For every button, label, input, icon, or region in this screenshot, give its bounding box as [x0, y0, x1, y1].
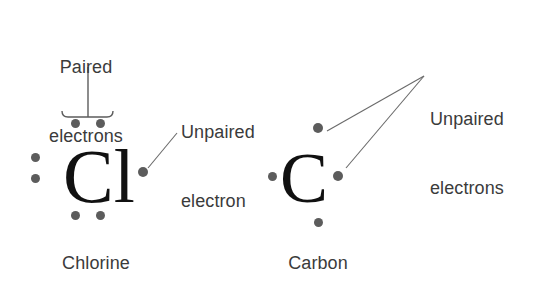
unpaired-electron-label: Unpaired electron — [181, 75, 255, 259]
unpaired-electron-label-line1: Unpaired — [181, 121, 255, 144]
electron-chlorine-bottom-right — [96, 211, 105, 220]
electron-chlorine-left-upper — [31, 153, 40, 162]
lewis-dot-structure-diagram: Paired electrons Unpaired electron Cl Ch… — [0, 0, 537, 296]
unpaired-electrons-label-line1: Unpaired — [430, 108, 504, 131]
electron-chlorine-bottom-left — [71, 211, 80, 220]
unpaired-electrons-label: Unpaired electrons — [430, 62, 504, 246]
electron-chlorine-right — [138, 167, 148, 177]
electron-carbon-left — [268, 172, 277, 181]
atom-symbol-carbon: C — [280, 142, 328, 214]
atom-symbol-chlorine: Cl — [63, 138, 135, 214]
electron-carbon-bottom — [314, 218, 323, 227]
atom-name-carbon: Carbon — [288, 252, 348, 275]
electron-chlorine-top-right — [96, 119, 105, 128]
unpaired-electrons-label-line2: electrons — [430, 177, 504, 200]
electron-carbon-right — [333, 171, 343, 181]
unpaired-electrons-leader-line-right — [346, 76, 424, 168]
paired-electrons-label-line1: Paired — [49, 56, 123, 79]
electron-chlorine-left-lower — [31, 174, 40, 183]
unpaired-electron-leader-line — [148, 133, 177, 168]
electron-chlorine-top-left — [71, 119, 80, 128]
unpaired-electrons-leader-line-top — [327, 76, 424, 131]
unpaired-electron-label-line2: electron — [181, 190, 255, 213]
electron-carbon-top — [313, 123, 323, 133]
atom-name-chlorine: Chlorine — [62, 252, 130, 275]
